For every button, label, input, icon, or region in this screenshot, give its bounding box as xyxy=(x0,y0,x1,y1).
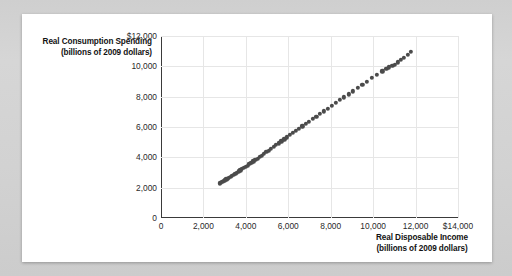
scatter-point xyxy=(333,101,337,105)
plot-area: 02,0004,0006,0008,00010,000$12,00002,000… xyxy=(161,36,458,218)
x-axis-title-main: Real Disposable Income xyxy=(376,233,468,242)
x-axis-tick-label: 6,000 xyxy=(278,221,299,231)
y-axis-title-sub: (billions of 2009 dollars) xyxy=(61,48,152,57)
x-axis-title-sub: (billions of 2009 dollars) xyxy=(376,244,467,253)
x-axis-tick-label: 0 xyxy=(159,221,164,231)
gridline-horizontal xyxy=(161,157,458,158)
gridline-horizontal xyxy=(161,36,458,37)
y-axis-tick-label: 8,000 xyxy=(136,92,157,102)
y-axis-tick-label: 6,000 xyxy=(136,122,157,132)
scatter-point xyxy=(342,95,346,99)
scatter-point xyxy=(356,86,360,90)
scatter-point xyxy=(409,50,413,54)
gridline-vertical xyxy=(246,36,247,218)
scatter-point xyxy=(375,73,379,77)
y-axis-tick-label: 10,000 xyxy=(131,61,157,71)
gridline-horizontal xyxy=(161,188,458,189)
x-axis-line xyxy=(161,217,458,218)
x-axis-tick-label: 2,000 xyxy=(193,221,214,231)
scatter-point xyxy=(360,83,364,87)
gridline-horizontal xyxy=(161,66,458,67)
x-axis-tick-label: 10,000 xyxy=(360,221,386,231)
gridline-horizontal xyxy=(161,97,458,98)
gridline-vertical xyxy=(416,36,417,218)
y-axis-tick-label: 2,000 xyxy=(136,183,157,193)
scatter-chart: Real Consumption Spending (billions of 2… xyxy=(22,14,492,262)
scatter-point xyxy=(351,89,355,93)
y-axis-tick-label: 4,000 xyxy=(136,152,157,162)
gridline-vertical xyxy=(203,36,204,218)
x-axis-tick-label: 4,000 xyxy=(235,221,256,231)
scatter-point xyxy=(329,104,333,108)
x-axis-title: Real Disposable Income (billions of 2009… xyxy=(352,232,492,254)
figure-card: Real Consumption Spending (billions of 2… xyxy=(22,14,492,262)
x-axis-tick-label: $14,000 xyxy=(443,221,473,231)
gridline-vertical xyxy=(458,36,459,218)
gridline-vertical xyxy=(331,36,332,218)
scatter-point xyxy=(338,98,342,102)
x-axis-tick-label: 12,000 xyxy=(403,221,429,231)
scatter-point xyxy=(365,79,369,83)
scatter-point xyxy=(405,53,409,57)
y-axis-tick-label: 0 xyxy=(152,213,157,223)
gridline-horizontal xyxy=(161,127,458,128)
y-axis-tick-label: $12,000 xyxy=(127,31,157,41)
x-axis-tick-label: 8,000 xyxy=(320,221,341,231)
gridline-vertical xyxy=(373,36,374,218)
gridline-vertical xyxy=(288,36,289,218)
